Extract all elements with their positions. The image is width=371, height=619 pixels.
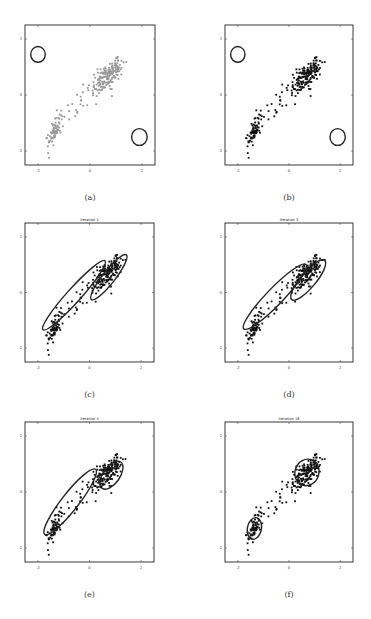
y-tick-label: 0 [220, 490, 223, 494]
x-tick-label: 0 [288, 566, 291, 570]
panel-caption: (f) [269, 590, 309, 599]
x-tick-label: 2 [339, 566, 341, 570]
x-tick-label: -2 [236, 566, 240, 570]
panel-title: Iteration 16 [279, 417, 301, 421]
y-tick-label: 2 [220, 434, 222, 438]
y-tick-label: -2 [218, 546, 222, 550]
axes-frame [225, 422, 353, 562]
